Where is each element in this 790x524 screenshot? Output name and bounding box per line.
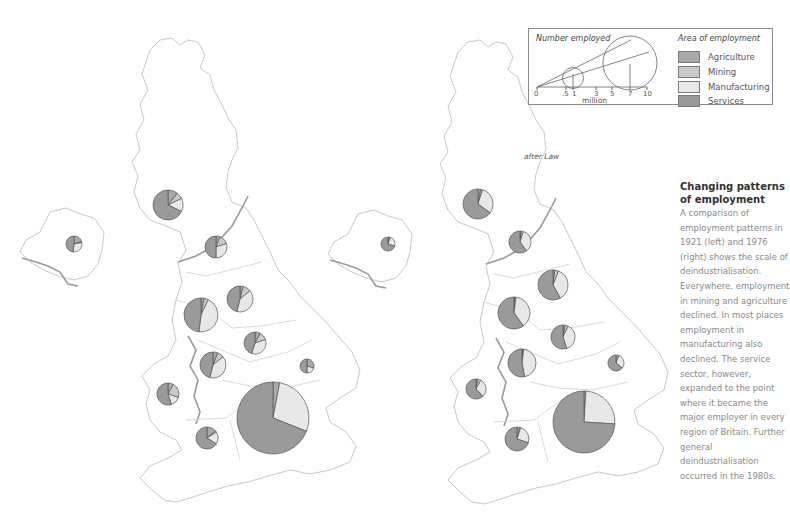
legend-item-mining: Mining [678,65,736,78]
ireland-coastline [328,210,412,282]
pie-west-midlands [200,352,226,378]
pie-east-midlands [551,325,575,349]
wales-border [188,336,200,424]
legend-item-agriculture: Agriculture [678,50,755,63]
map-1976 [328,40,668,504]
area-of-employment-title: Area of employment [678,34,760,43]
pie-charts-1976 [381,189,624,453]
pie-wales [157,383,179,405]
legend-label: Agriculture [708,52,755,62]
legend-item-manufacturing: Manufacturing [678,80,770,93]
services-slice [227,286,240,312]
manufacturing-swatch [678,81,700,93]
manufacturing-slice [584,391,615,424]
services-slice [66,236,74,252]
legend-label: Mining [708,67,736,77]
scale-unit: million [582,96,607,105]
services-swatch [678,95,700,107]
agriculture-swatch [678,51,700,63]
pie-south-west [196,427,218,449]
legend-label: Manufacturing [708,82,770,92]
legend-label: Services [708,96,744,106]
scale-tick-0.5: .5 [562,90,569,98]
caption: Changing patterns of employment A compar… [680,180,790,483]
proportional-circle-scale [529,29,674,104]
ireland-coastline [20,208,104,280]
scale-tick-7: 7 [628,90,632,98]
pie-west-midlands [508,349,536,377]
map-1921 [20,38,360,502]
scale-tick-5: 5 [610,90,614,98]
pie-east-midlands [244,332,266,354]
scale-tick-10: 10 [643,90,652,98]
mining-swatch [678,66,700,78]
pie-wales [466,379,486,399]
pie-north-west [498,297,530,329]
pie-north-west [184,298,218,332]
pie-northern-ireland [66,236,82,252]
pie-north [205,236,227,258]
pie-yorkshire-humberside [538,270,568,300]
legend-item-services: Services [678,94,744,107]
legend: Number employed 0 .5 1 3 5 7 10 million … [528,28,773,105]
pie-scotland [463,189,493,219]
pie-yorkshire-humberside [227,286,253,312]
services-slice [508,349,525,377]
source-note: after Law [524,152,559,161]
pie-south-east [553,391,615,453]
pie-east-anglia [300,359,314,373]
pie-scotland [153,190,183,220]
services-slice [300,359,307,373]
pie-charts-1921 [66,190,314,454]
scale-tick-1: 1 [572,90,576,98]
pie-south-east [237,382,309,454]
wales-border [496,338,508,426]
caption-body: A comparison of employment patterns in 1… [680,206,790,483]
pie-north [509,231,531,253]
scale-tick-0: 0 [534,90,538,98]
pie-south-west [505,427,529,451]
services-slice [205,236,216,258]
pie-east-anglia [608,355,624,371]
pie-northern-ireland [381,237,395,251]
services-slice [200,352,213,378]
caption-title: Changing patterns of employment [680,180,790,206]
